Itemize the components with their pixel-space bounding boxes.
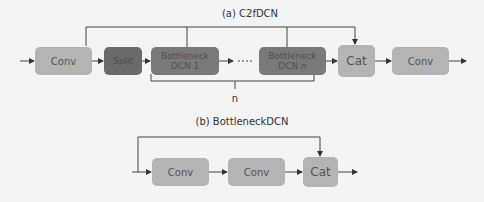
conv-in-block: Conv <box>35 47 92 75</box>
bottleneck-dcn-1-block: Bottleneck DCN 1 <box>151 47 219 75</box>
bottleneck-conv-2-block: Conv <box>228 158 285 186</box>
diagram-b-title: (b) BottleneckDCN <box>195 116 288 127</box>
diagram-a-title: (a) C2fDCN <box>222 8 278 19</box>
split-block: Split <box>104 47 142 75</box>
bottleneck-dcn-n-block: Bottleneck DCN n <box>259 47 326 75</box>
conv-out-block: Conv <box>392 47 449 75</box>
repeat-label: n <box>232 93 238 104</box>
bottleneck-cat-block: Cat <box>303 157 338 187</box>
cat-block: Cat <box>338 45 375 77</box>
bottleneck-conv-1-block: Conv <box>152 158 209 186</box>
